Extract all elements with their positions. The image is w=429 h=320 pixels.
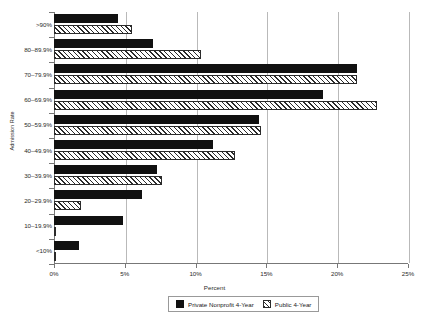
bar-group — [54, 63, 408, 88]
bar-group — [54, 38, 408, 63]
bar-private-nonprofit[interactable] — [54, 90, 323, 99]
bar-group — [54, 89, 408, 114]
x-axis-title: Percent — [0, 284, 429, 291]
bar-public[interactable] — [54, 50, 201, 59]
bar-public[interactable] — [54, 75, 357, 84]
bar-group — [54, 164, 408, 189]
bar-private-nonprofit[interactable] — [54, 165, 157, 174]
bar-private-nonprofit[interactable] — [54, 190, 142, 199]
y-axis-label: 20–29.9% — [0, 197, 52, 204]
legend-label-private: Private Nonprofit 4-Year — [188, 301, 254, 308]
bar-private-nonprofit[interactable] — [54, 216, 123, 225]
x-axis-label: 15% — [260, 270, 272, 277]
bar-group — [54, 189, 408, 214]
bar-chart: Admission Rate 0%5%10%15%20%25%>90%80–89… — [0, 0, 429, 320]
bar-private-nonprofit[interactable] — [54, 14, 118, 23]
bar-group — [54, 215, 408, 240]
bar-public[interactable] — [54, 227, 56, 236]
y-axis-label: 10–19.9% — [0, 222, 52, 229]
bar-private-nonprofit[interactable] — [54, 140, 213, 149]
bar-public[interactable] — [54, 126, 261, 135]
x-axis-label: 5% — [120, 270, 129, 277]
bar-private-nonprofit[interactable] — [54, 241, 79, 250]
y-axis-label: >90% — [0, 21, 52, 28]
bar-private-nonprofit[interactable] — [54, 115, 259, 124]
bar-public[interactable] — [54, 25, 132, 34]
y-axis-label: 30–39.9% — [0, 172, 52, 179]
chart-legend: Private Nonprofit 4-Year Public 4-Year — [168, 296, 319, 312]
legend-item-public[interactable]: Public 4-Year — [263, 300, 312, 308]
bar-public[interactable] — [54, 176, 162, 185]
legend-swatch-private-icon — [176, 300, 184, 308]
bar-group — [54, 139, 408, 164]
bar-group — [54, 240, 408, 265]
y-axis-label: 70–79.9% — [0, 71, 52, 78]
x-axis-tick — [408, 264, 409, 268]
y-axis-label: 50–59.9% — [0, 121, 52, 128]
bar-group — [54, 114, 408, 139]
x-axis-label: 0% — [50, 270, 59, 277]
legend-item-private[interactable]: Private Nonprofit 4-Year — [176, 300, 254, 308]
bar-private-nonprofit[interactable] — [54, 39, 153, 48]
bar-public[interactable] — [54, 201, 81, 210]
legend-swatch-public-icon — [263, 300, 271, 308]
bar-public[interactable] — [54, 101, 377, 110]
y-axis-label: 60–69.9% — [0, 96, 52, 103]
x-axis-label: 10% — [189, 270, 201, 277]
bar-public[interactable] — [54, 252, 56, 261]
gridline — [409, 12, 410, 263]
bar-group — [54, 13, 408, 38]
y-axis-label: <10% — [0, 247, 52, 254]
bar-public[interactable] — [54, 151, 235, 160]
bar-private-nonprofit[interactable] — [54, 64, 357, 73]
legend-label-public: Public 4-Year — [275, 301, 312, 308]
x-axis-label: 25% — [402, 270, 414, 277]
y-axis-label: 40–49.9% — [0, 147, 52, 154]
x-axis-label: 20% — [331, 270, 343, 277]
y-axis-label: 80–89.9% — [0, 46, 52, 53]
